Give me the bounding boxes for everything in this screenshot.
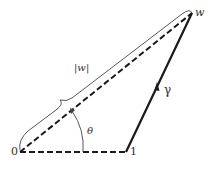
label-one: 1	[130, 146, 137, 157]
diagram-canvas	[0, 0, 211, 170]
label-gamma: γ	[164, 84, 171, 96]
modulus-brace	[20, 11, 192, 150]
label-w: w	[195, 7, 204, 18]
label-theta: θ	[87, 126, 93, 136]
label-modulus: |w|	[74, 63, 89, 73]
angle-arc	[72, 111, 83, 152]
path-gamma	[126, 13, 192, 152]
label-origin: 0	[11, 146, 18, 157]
